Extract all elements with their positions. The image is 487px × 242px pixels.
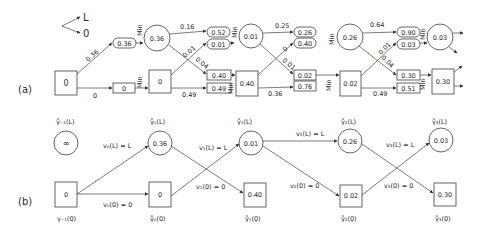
edge-label: 0.36	[84, 48, 100, 63]
svg-text:0.30: 0.30	[401, 72, 415, 80]
svg-text:0.51: 0.51	[401, 85, 415, 93]
svg-text:0.03: 0.03	[433, 34, 447, 42]
svg-text:γ̊₋₁(L): γ̊₋₁(L)	[56, 118, 75, 126]
trellis-diagram: L 0 (a) 0 0.36 0 0.36 0 Min Min 0.36 0 0…	[0, 0, 487, 242]
svg-text:Min: Min	[136, 76, 144, 88]
decision-0: v₀(0) = 0	[103, 201, 132, 209]
svg-text:0.36: 0.36	[268, 90, 282, 98]
edge-label: 0	[93, 92, 97, 100]
svg-text:0.03: 0.03	[434, 137, 448, 145]
legend-arrow-up-icon	[62, 17, 80, 26]
svg-text:Min: Min	[227, 82, 235, 94]
svg-text:γ̊₀(0): γ̊₀(0)	[150, 215, 166, 223]
legend-arrow-down-icon	[62, 26, 80, 33]
svg-text:∞: ∞	[63, 139, 70, 148]
svg-text:γ̊₀(L): γ̊₀(L)	[150, 118, 165, 126]
decision-0: v₂(0) = 0	[290, 182, 319, 190]
svg-text:0.16: 0.16	[180, 23, 194, 31]
decision-0: v₁(0) = 0	[196, 183, 225, 191]
svg-text:Min: Min	[328, 33, 336, 45]
svg-text:γ̊₃(0): γ̊₃(0)	[435, 215, 451, 223]
decision-L: v₀(L) = L	[103, 142, 132, 150]
svg-text:0.36: 0.36	[153, 140, 167, 148]
svg-text:γ̊₃(L): γ̊₃(L)	[432, 118, 447, 126]
start-box-value: 0	[63, 79, 68, 88]
svg-text:Min: Min	[325, 79, 333, 91]
legend: L 0	[62, 12, 89, 39]
svg-text:γ̊₁(0): γ̊₁(0)	[245, 215, 261, 223]
svg-text:0.90: 0.90	[401, 29, 415, 37]
decision-0: v₃(0) = 0	[384, 182, 413, 190]
decision-L: v₃(L) = L	[386, 141, 415, 149]
svg-text:0.40: 0.40	[212, 72, 226, 80]
svg-text:0.01: 0.01	[181, 44, 197, 59]
legend-label-0: 0	[83, 28, 89, 39]
svg-text:γ₋₁(0): γ₋₁(0)	[57, 215, 76, 223]
svg-text:0.02: 0.02	[344, 192, 358, 200]
svg-text:0.02: 0.02	[298, 72, 312, 80]
svg-text:0.40: 0.40	[248, 191, 262, 199]
panel-b-label: (b)	[18, 196, 32, 207]
svg-text:0.30: 0.30	[436, 78, 450, 86]
svg-text:Min: Min	[136, 24, 144, 36]
svg-text:0.76: 0.76	[298, 83, 312, 91]
svg-text:0.26: 0.26	[343, 34, 357, 42]
svg-text:0.01: 0.01	[377, 41, 393, 57]
svg-text:0: 0	[281, 45, 289, 54]
svg-text:0.40: 0.40	[240, 80, 254, 88]
svg-text:0.36: 0.36	[117, 40, 131, 48]
svg-text:γ̊₂(0): γ̊₂(0)	[341, 215, 357, 223]
svg-text:0.30: 0.30	[438, 191, 452, 199]
svg-text:0.02: 0.02	[343, 80, 357, 88]
svg-text:Min: Min	[231, 26, 239, 38]
svg-text:0.03: 0.03	[401, 41, 415, 49]
svg-text:0.01: 0.01	[281, 56, 297, 71]
svg-text:0: 0	[158, 191, 162, 199]
svg-text:0.36: 0.36	[150, 35, 164, 43]
svg-text:0.64: 0.64	[370, 21, 384, 29]
decision-L: v₁(L) = L	[199, 144, 228, 152]
svg-text:γ̊₁(L): γ̊₁(L)	[237, 118, 252, 126]
svg-text:γ̊₂(L): γ̊₂(L)	[341, 118, 356, 126]
svg-text:0.40: 0.40	[298, 40, 312, 48]
svg-text:0.04: 0.04	[194, 55, 210, 70]
svg-text:Min: Min	[419, 28, 427, 40]
svg-text:0: 0	[122, 85, 126, 93]
svg-text:0.49: 0.49	[212, 85, 226, 93]
svg-text:0.26: 0.26	[298, 29, 312, 37]
svg-text:0.49: 0.49	[182, 91, 196, 99]
svg-text:0: 0	[158, 78, 162, 86]
decision-L: v₂(L) = L	[296, 130, 325, 138]
svg-text:0.26: 0.26	[343, 138, 357, 146]
panel-a-label: (a)	[18, 84, 32, 95]
svg-text:0.25: 0.25	[275, 22, 289, 30]
svg-text:0.52: 0.52	[211, 29, 225, 37]
legend-label-L: L	[83, 12, 89, 23]
svg-text:0.49: 0.49	[373, 90, 387, 98]
svg-text:Min: Min	[419, 78, 427, 90]
svg-text:0.01: 0.01	[244, 33, 258, 41]
svg-text:0: 0	[64, 191, 68, 199]
svg-text:0.01: 0.01	[211, 41, 225, 49]
svg-text:0.01: 0.01	[244, 140, 258, 148]
